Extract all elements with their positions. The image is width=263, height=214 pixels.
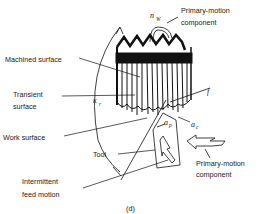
symbol-ap-sub: p bbox=[168, 122, 172, 128]
label-transient-surface-1: Transient bbox=[13, 90, 43, 99]
label-primary-motion-top-2: component bbox=[181, 18, 217, 27]
label-primary-motion-top-1: Primary-motion bbox=[181, 6, 230, 15]
figure-caption: (d) bbox=[126, 204, 135, 213]
label-transient-surface-2: surface bbox=[13, 102, 37, 111]
symbol-ac: a bbox=[191, 120, 195, 129]
symbol-f: f bbox=[207, 87, 211, 96]
symbol-ac-sub: c bbox=[196, 124, 199, 130]
primary-motion-arrow-right bbox=[187, 135, 225, 158]
label-intermittent-feed-1: Intermittent bbox=[22, 177, 58, 186]
cutter-body bbox=[116, 35, 192, 115]
label-primary-motion-right-1: Primary-motion bbox=[196, 159, 245, 168]
symbol-n: n bbox=[150, 11, 154, 20]
symbol-n-sub: W bbox=[156, 16, 161, 22]
label-primary-motion-right-2: component bbox=[196, 170, 232, 179]
broaching-diagram: n W κ r f a p a c Primary-motion compone… bbox=[0, 0, 263, 214]
label-intermittent-feed-2: feed motion bbox=[22, 190, 60, 199]
label-work-surface: Work surface bbox=[3, 133, 45, 142]
label-machined-surface: Machined surface bbox=[5, 55, 62, 64]
symbol-ap: a bbox=[164, 118, 168, 127]
label-tool: Tool bbox=[93, 150, 107, 159]
symbol-kappa: κ bbox=[93, 96, 97, 105]
symbol-kappa-sub: r bbox=[99, 101, 102, 107]
